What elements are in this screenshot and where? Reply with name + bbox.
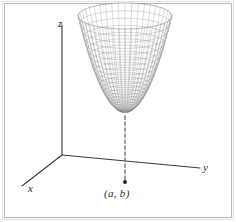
point-label-ab: (a, b) <box>104 187 130 199</box>
marked-point <box>123 180 127 184</box>
axes-group <box>22 25 200 186</box>
axis-label-z: z <box>58 18 62 29</box>
axis-label-y: y <box>203 162 208 173</box>
surface-mesh <box>78 3 172 112</box>
figure-container: z x y (a, b) <box>0 0 236 222</box>
axis-label-x: x <box>28 183 33 194</box>
